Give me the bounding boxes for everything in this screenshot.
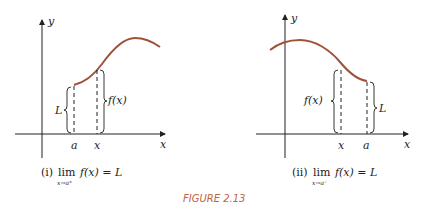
x-axis-label: x: [404, 138, 411, 151]
brace-label-L: L: [378, 102, 386, 115]
svg-text:lim: lim: [313, 166, 331, 179]
svg-text:lim: lim: [58, 166, 76, 179]
brace-label-L: L: [54, 104, 62, 117]
curve: [74, 38, 160, 85]
brace-fx: [331, 70, 338, 133]
y-axis-label: y: [290, 12, 298, 25]
svg-text:x→a⁺: x→a⁺: [57, 179, 72, 186]
panel-right: y x x a f(x) L (ii) lim x→a⁻ f(x) = L: [256, 12, 411, 186]
caption-left: (i) lim x→a⁺ f(x) = L: [41, 166, 122, 186]
caption-right: (ii) lim x→a⁻ f(x) = L: [292, 166, 377, 186]
x-axis-label: x: [160, 138, 167, 151]
svg-text:(i): (i): [41, 166, 53, 179]
svg-text:f(x) = L: f(x) = L: [334, 166, 377, 179]
brace-label-fx: f(x): [107, 94, 127, 107]
tick-label-a: a: [71, 139, 78, 152]
figure-canvas: y x a x L f(x) (i) lim x→a⁺ f(x) = L y x…: [0, 0, 427, 217]
svg-text:f(x) = L: f(x) = L: [79, 166, 122, 179]
brace-fx: [100, 70, 107, 133]
svg-text:(ii): (ii): [292, 166, 308, 179]
svg-text:x→a⁻: x→a⁻: [312, 179, 327, 186]
tick-label-x: x: [94, 139, 101, 152]
y-axis-label: y: [47, 15, 55, 28]
brace-label-fx: f(x): [303, 94, 323, 107]
figure-label: FIGURE 2.13: [183, 193, 245, 204]
tick-label-a: a: [363, 139, 370, 152]
tick-label-x: x: [338, 139, 345, 152]
brace-L: [370, 82, 377, 133]
brace-L: [64, 87, 71, 133]
panel-left: y x a x L f(x) (i) lim x→a⁺ f(x) = L: [15, 15, 167, 186]
